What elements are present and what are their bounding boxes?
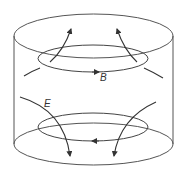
cylinder-bottom-ellipse — [14, 123, 173, 165]
cylinder-field-diagram: B E — [0, 0, 187, 177]
label-e: E — [44, 98, 51, 109]
lower-field-loop — [38, 113, 148, 141]
cylinder — [14, 14, 173, 165]
cylinder-top-ellipse — [14, 14, 173, 58]
label-b: B — [100, 72, 107, 83]
